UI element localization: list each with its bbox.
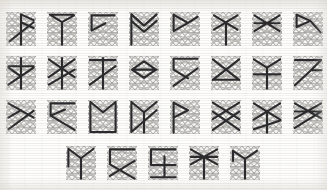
lattice-figure-cell <box>170 56 200 90</box>
lattice-figure-cell <box>293 12 323 46</box>
lattice-figure-cell <box>107 146 137 180</box>
lattice-figure-cell <box>129 100 159 134</box>
lattice-figure-cell <box>6 56 36 90</box>
lattice-figure-cell <box>252 56 282 90</box>
lattice-figure-cell <box>170 100 200 134</box>
lattice-figure-cell <box>252 12 282 46</box>
lattice-figure-cell <box>88 56 118 90</box>
lattice-figure-cell <box>170 12 200 46</box>
lattice-figure-cell <box>148 146 178 180</box>
lattice-figure-cell <box>211 12 241 46</box>
lattice-figure-cell <box>66 146 96 180</box>
lattice-cells-layer <box>0 0 327 190</box>
lattice-figure-cell <box>252 100 282 134</box>
lattice-figure-cell <box>211 56 241 90</box>
lattice-figure-cell <box>293 56 323 90</box>
lattice-figure-cell <box>47 12 77 46</box>
lattice-figure-cell <box>129 56 159 90</box>
lattice-figure-cell <box>47 100 77 134</box>
lattice-grid <box>88 100 118 134</box>
lattice-figure-cell <box>47 56 77 90</box>
lattice-figure-cell <box>88 12 118 46</box>
lattice-figure-cell <box>293 100 323 134</box>
lattice-figure-cell <box>129 12 159 46</box>
lattice-figure-cell <box>230 146 260 180</box>
lattice-figure-cell <box>211 100 241 134</box>
lattice-figure-cell <box>189 146 219 180</box>
lattice-grid <box>148 146 178 180</box>
lattice-figure-cell <box>6 100 36 134</box>
lattice-figure-cell <box>88 100 118 134</box>
figure-canvas <box>0 0 327 190</box>
lattice-figure-cell <box>6 12 36 46</box>
